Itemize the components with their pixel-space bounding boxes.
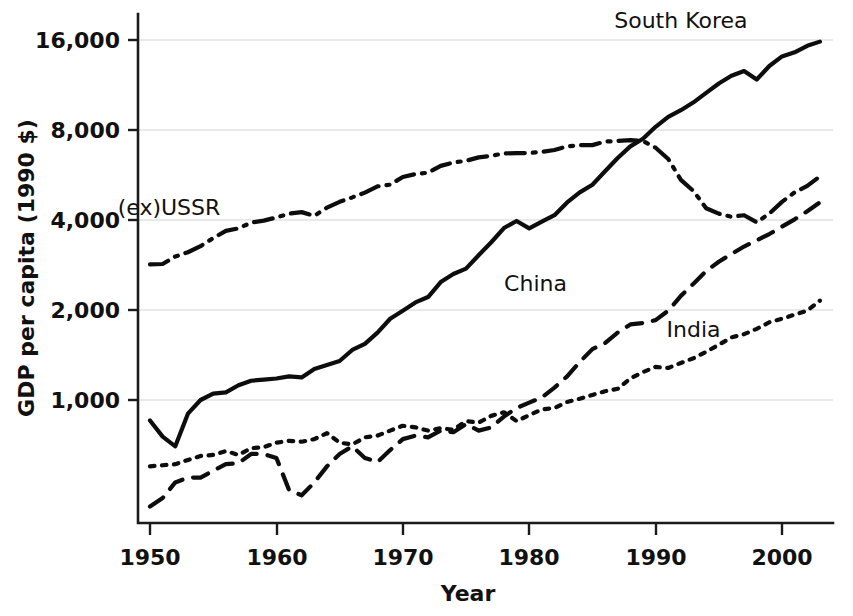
series-line-south-korea bbox=[150, 42, 820, 447]
ytick-label-2000: 2,000 bbox=[50, 298, 120, 323]
series-label-china: China bbox=[504, 271, 567, 296]
y-tick-labels: 16,000 8,000 4,000 2,000 1,000 bbox=[35, 28, 120, 413]
series-label-south-korea: South Korea bbox=[614, 8, 747, 33]
ytick-label-4000: 4,000 bbox=[50, 208, 120, 233]
axis-frame bbox=[138, 14, 833, 523]
gridlines bbox=[138, 40, 833, 400]
xtick-label-2000: 2000 bbox=[751, 545, 812, 570]
gdp-per-capita-line-chart: 16,000 8,000 4,000 2,000 1,000 1950 1960… bbox=[0, 0, 853, 616]
ytick-label-8000: 8,000 bbox=[50, 118, 120, 143]
xtick-label-1980: 1980 bbox=[498, 545, 559, 570]
series-label-ex-ussr: (ex)USSR bbox=[118, 195, 221, 220]
ytick-label-16000: 16,000 bbox=[35, 28, 120, 53]
ytick-label-1000: 1,000 bbox=[50, 388, 120, 413]
x-tick-labels: 1950 1960 1970 1980 1990 2000 bbox=[119, 545, 812, 570]
axes bbox=[128, 14, 833, 535]
series-label-india: India bbox=[667, 317, 721, 342]
xtick-label-1970: 1970 bbox=[372, 545, 433, 570]
xtick-label-1950: 1950 bbox=[119, 545, 180, 570]
chart-figure: 16,000 8,000 4,000 2,000 1,000 1950 1960… bbox=[0, 0, 853, 616]
xtick-label-1990: 1990 bbox=[625, 545, 686, 570]
xtick-label-1960: 1960 bbox=[246, 545, 307, 570]
x-axis-title: Year bbox=[440, 581, 496, 606]
plot-series bbox=[150, 42, 820, 507]
y-axis-title: GDP per capita (1990 $) bbox=[14, 119, 39, 417]
